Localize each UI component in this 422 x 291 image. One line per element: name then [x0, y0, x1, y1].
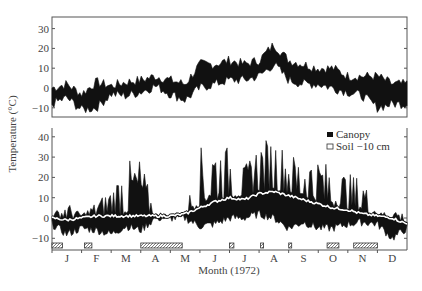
soil-swatch-icon — [327, 144, 333, 149]
snow-cover-bars — [52, 243, 377, 248]
y-tick-label: −10 — [32, 232, 50, 244]
y-tick-label: 0 — [44, 212, 50, 224]
snow-cover-bar — [261, 243, 264, 248]
month-label: F — [93, 252, 99, 264]
y-tick-label: 20 — [38, 171, 50, 183]
y-tick-label: 0 — [44, 82, 50, 94]
x-axis-label: Month (1972) — [198, 264, 260, 277]
top-air-band — [52, 43, 407, 113]
temperature-band — [52, 141, 407, 241]
snow-cover-bar — [327, 243, 339, 248]
y-tick-label: 40 — [38, 131, 50, 143]
y-tick-label: 10 — [38, 192, 50, 204]
snow-cover-bar — [85, 243, 92, 248]
month-label: M — [121, 252, 131, 264]
month-label: O — [329, 252, 337, 264]
temperature-chart: 3020100−10 403020100−10 JFMAMJJASOND Tem… — [0, 0, 422, 291]
snow-cover-bar — [141, 243, 182, 248]
month-label: J — [242, 252, 247, 264]
snow-cover-bar — [289, 243, 292, 248]
snow-cover-bar — [52, 243, 62, 248]
y-axis-label: Temperature (°C) — [6, 95, 19, 173]
canopy-swatch-icon — [327, 132, 333, 137]
y-tick-label: 30 — [38, 23, 50, 35]
y-tick-label: 20 — [38, 42, 50, 54]
legend-canopy-label: Canopy — [336, 128, 371, 140]
month-label: S — [300, 252, 306, 264]
bottom-canopy-band — [52, 141, 407, 241]
y-tick-label: 30 — [38, 151, 50, 163]
temperature-band — [52, 43, 407, 113]
month-label: J — [213, 252, 218, 264]
month-label: M — [180, 252, 190, 264]
y-tick-label: 10 — [38, 62, 50, 74]
snow-cover-bar — [230, 243, 234, 248]
legend-soil-label: Soil −10 cm — [336, 140, 390, 152]
y-tick-label: −10 — [32, 102, 50, 114]
x-axis-month-labels: JFMAMJJASOND — [52, 250, 396, 264]
month-label: J — [65, 252, 70, 264]
snow-cover-bar — [354, 243, 378, 248]
month-label: A — [270, 252, 278, 264]
month-label: N — [359, 252, 367, 264]
month-label: D — [388, 252, 396, 264]
legend: Canopy Soil −10 cm — [327, 128, 390, 152]
month-label: A — [152, 252, 160, 264]
